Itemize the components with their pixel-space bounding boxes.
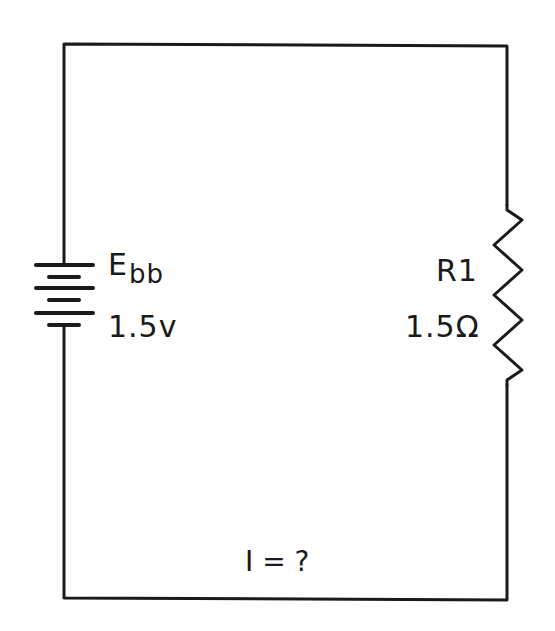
battery-voltage: 1.5v: [108, 312, 177, 342]
battery-label: Ebb: [108, 250, 164, 280]
resistor-value: 1.5Ω: [405, 312, 480, 342]
battery-subscript: bb: [129, 259, 164, 289]
battery-icon: [36, 265, 93, 325]
resistor-label: R1: [436, 256, 478, 286]
battery-symbol: E: [108, 247, 128, 282]
top-wire: [64, 44, 507, 265]
resistor-icon: [494, 205, 522, 385]
current-label: I = ?: [245, 548, 309, 576]
